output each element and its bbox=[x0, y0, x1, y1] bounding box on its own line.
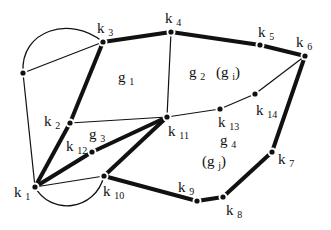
edge-k7-k8 bbox=[223, 152, 272, 197]
node-k9 bbox=[194, 198, 199, 203]
curved-edges bbox=[23, 28, 104, 205]
edge-k13-k14 bbox=[220, 94, 255, 109]
edge-k10-k11 bbox=[104, 117, 167, 176]
edge-k3-k2 bbox=[70, 42, 103, 123]
node-k11 bbox=[164, 114, 169, 119]
edge-k6-k7 bbox=[272, 56, 305, 152]
node-k1 bbox=[32, 184, 37, 189]
node-k14 bbox=[252, 91, 257, 96]
node-label-k3: k 3 bbox=[97, 20, 113, 38]
node-k8 bbox=[220, 194, 225, 199]
node-label-k13: k 13 bbox=[218, 114, 239, 132]
node-label-k5: k 5 bbox=[258, 24, 274, 42]
planar-graph-diagram: k 1k 2k 3k 4k 5k 6k 7k 8k 9k 10k 11k 12k… bbox=[0, 0, 331, 230]
node-k6 bbox=[302, 53, 307, 58]
region-label-gi: (g i) bbox=[216, 64, 240, 82]
node-v0 bbox=[20, 70, 25, 75]
node-label-k4: k 4 bbox=[165, 10, 181, 28]
node-label-k11: k 11 bbox=[168, 123, 189, 141]
node-k13 bbox=[217, 106, 222, 111]
edge-k11-k13 bbox=[167, 109, 220, 117]
node-label-k9: k 9 bbox=[178, 179, 194, 197]
edge-k4-k5 bbox=[171, 32, 260, 45]
node-label-k8: k 8 bbox=[226, 202, 242, 220]
region-label-g3: g 3 bbox=[89, 126, 105, 144]
node-label-k7: k 7 bbox=[278, 151, 294, 169]
node-k10 bbox=[101, 173, 106, 178]
node-k3 bbox=[100, 39, 105, 44]
node-label-k10: k 10 bbox=[103, 183, 124, 201]
node-k4 bbox=[168, 29, 173, 34]
node-label-k1: k 1 bbox=[14, 184, 30, 202]
node-label-k12: k 12 bbox=[66, 138, 87, 156]
node-k2 bbox=[67, 120, 72, 125]
node-label-k2: k 2 bbox=[44, 113, 60, 131]
node-k12 bbox=[89, 149, 94, 154]
edge-k4-k11 bbox=[167, 32, 171, 117]
node-label-k6: k 6 bbox=[296, 34, 312, 52]
region-label-g4: g 4 bbox=[220, 132, 236, 150]
region-label-g1: g 1 bbox=[118, 69, 134, 87]
edge-v0-k1 bbox=[23, 73, 35, 187]
node-label-k14: k 14 bbox=[256, 102, 277, 120]
region-label-g2: g 2 bbox=[189, 64, 205, 82]
node-k7 bbox=[269, 149, 274, 154]
region-label-gj: (g j) bbox=[202, 153, 226, 171]
node-k5 bbox=[257, 42, 262, 47]
